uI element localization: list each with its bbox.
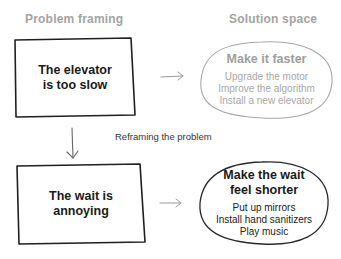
problem-box-1-line2: is too slow — [15, 78, 135, 93]
solution-blob-2-title-line2: feel shorter — [199, 183, 329, 198]
solution-item: Install a new elevator — [200, 95, 333, 107]
problem-box-1-line1: The elevator — [15, 63, 135, 78]
solution-blob-1: Make it faster Upgrade the motor Improve… — [200, 52, 333, 107]
reframing-label: Reframing the problem — [115, 131, 212, 142]
solution-space-header: Solution space — [229, 12, 317, 26]
solution-item: Upgrade the motor — [200, 71, 333, 83]
arrow-down-icon — [67, 128, 78, 158]
solution-blob-2: Make the wait feel shorter Put up mirror… — [199, 168, 329, 238]
solution-item: Improve the algorithm — [200, 83, 333, 95]
solution-blob-2-title-line1: Make the wait — [199, 168, 329, 183]
arrow-right-icon — [161, 72, 183, 80]
problem-framing-header: Problem framing — [25, 12, 123, 26]
problem-box-2-line1: The wait is — [17, 189, 145, 204]
solution-item: Install hand sanitizers — [199, 214, 329, 226]
solution-item: Play music — [199, 226, 329, 238]
solution-item: Put up mirrors — [199, 202, 329, 214]
solution-blob-1-title: Make it faster — [200, 52, 333, 67]
problem-box-1: The elevator is too slow — [15, 63, 135, 93]
problem-box-2: The wait is annoying — [17, 189, 145, 219]
arrow-right-icon — [160, 199, 181, 207]
problem-box-2-line2: annoying — [17, 204, 145, 219]
